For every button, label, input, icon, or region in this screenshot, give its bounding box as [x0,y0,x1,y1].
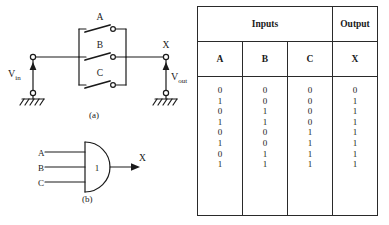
column-header-a: A [198,42,243,77]
caption-b: (b) [82,194,93,204]
table-cell: 0 [289,85,331,96]
gate-symbol-label: 1 [95,163,100,173]
table-cell: 1 [199,117,241,128]
switch-b-contact [111,55,116,60]
table-cell: 1 [334,96,376,107]
gate-input-a-label: A [38,148,45,158]
vout-arrow [163,62,170,70]
column-header-b: B [243,42,288,77]
table-cell: 0 [289,96,331,107]
table-cell: 0 [199,106,241,117]
gr-h3 [163,99,167,105]
gl-h5 [40,99,44,105]
table-cell: 1 [289,149,331,160]
truth-table-container: Inputs Output A B C X 01010101 00110011 … [197,6,378,216]
vout-label: Vout [171,71,187,85]
gl-h4 [35,99,39,105]
column-header-c: C [288,42,333,77]
table-cell: 0 [289,106,331,117]
column-bits-a: 01010101 [198,77,243,216]
switch-a-lever [85,25,110,32]
table-cell: 1 [244,149,286,160]
gr-h2 [158,99,162,105]
table-cell: 0 [199,127,241,138]
gr-h5 [173,99,177,105]
table-cell: 1 [334,159,376,170]
table-cell: 0 [289,117,331,128]
switch-c-contact [111,83,116,88]
table-group-header-row: Inputs Output [198,7,378,42]
table-cell: 0 [199,149,241,160]
group-header-output: Output [333,7,378,42]
table-cell: 0 [244,138,286,149]
node-x-label: X [163,40,170,50]
gl-h1 [20,99,24,105]
gate-output-arrow [131,163,140,171]
table-cell: 0 [244,96,286,107]
column-bits-x: 01111111 [333,77,378,216]
column-bits-c: 00001111 [288,77,333,216]
ground-left-terminal [30,90,35,95]
gr-h1 [153,99,157,105]
switch-c-label: C [97,68,103,78]
gl-h3 [30,99,34,105]
gate-input-c-label: C [38,178,44,188]
input-terminal [30,54,35,59]
gate-input-b-label: B [38,163,44,173]
switch-a-contact [111,27,116,32]
table-cell: 1 [334,149,376,160]
table-cell: 1 [289,138,331,149]
table-cell: 1 [244,117,286,128]
switch-b-label: B [97,40,103,50]
group-header-inputs: Inputs [198,7,333,42]
table-cell: 1 [199,159,241,170]
table-cell: 0 [244,85,286,96]
table-cell: 1 [244,106,286,117]
output-terminal [163,54,168,59]
switch-a-label: A [97,12,104,22]
gate-output-x-label: X [139,153,146,163]
table-column-header-row: A B C X [198,42,378,77]
column-bits-b: 00110011 [243,77,288,216]
ground-right-terminal [163,90,168,95]
switch-c-lever [85,81,110,88]
gl-h2 [25,99,29,105]
table-cell: 1 [289,127,331,138]
switch-b-lever [85,53,110,60]
table-cell: 1 [334,117,376,128]
table-cell: 1 [199,138,241,149]
table-cell: 1 [199,96,241,107]
table-cell: 1 [334,127,376,138]
vin-arrow [30,62,37,70]
gr-h4 [168,99,172,105]
table-data-row: 01010101 00110011 00001111 01111111 [198,77,378,216]
table-cell: 1 [289,159,331,170]
table-cell: 0 [244,127,286,138]
caption-a: (a) [89,110,99,120]
truth-table: Inputs Output A B C X 01010101 00110011 … [197,6,378,216]
column-header-x: X [333,42,378,77]
table-cell: 1 [334,106,376,117]
table-cell: 1 [334,138,376,149]
table-cell: 1 [244,159,286,170]
table-cell: 0 [334,85,376,96]
table-cell: 0 [199,85,241,96]
vin-label: Vin [8,68,21,82]
